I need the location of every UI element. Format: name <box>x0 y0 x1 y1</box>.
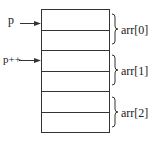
pointer-label-p-increment: p++ <box>3 53 21 65</box>
brace-icon <box>112 97 118 127</box>
arrowhead-icon <box>34 21 41 26</box>
arrowhead-icon <box>34 58 41 63</box>
group-label-arr2: arr[2] <box>121 107 148 119</box>
group-label-arr1: arr[1] <box>121 65 148 77</box>
brace-icon <box>112 55 118 85</box>
group-label-arr0: arr[0] <box>121 24 148 36</box>
brace-icon <box>112 14 118 44</box>
pointer-label-p: p <box>8 14 14 26</box>
